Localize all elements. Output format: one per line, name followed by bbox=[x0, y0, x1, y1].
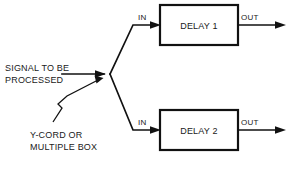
clipped-caption-region bbox=[0, 165, 293, 173]
upper-branch-line bbox=[110, 25, 155, 74]
diagram-canvas: DELAY 1 DELAY 2 SIGNAL TO BE PROCESSED Y… bbox=[0, 0, 293, 173]
delay-1-output-arrowhead bbox=[275, 21, 286, 29]
signal-delay-block-diagram: DELAY 1 DELAY 2 SIGNAL TO BE PROCESSED Y… bbox=[0, 0, 293, 173]
signal-label-line-1: SIGNAL TO BE bbox=[5, 63, 69, 73]
delay-1-label: DELAY 1 bbox=[180, 21, 218, 31]
delay-2-label: DELAY 2 bbox=[180, 126, 218, 136]
signal-label-line-2: PROCESSED bbox=[5, 75, 64, 85]
annotation-leader-arrowhead bbox=[95, 76, 104, 84]
annotation-label-line-2: MULTIPLE BOX bbox=[30, 142, 97, 152]
delay-2-output-arrowhead bbox=[275, 126, 286, 134]
delay-1-out-label: OUT bbox=[241, 13, 259, 22]
delay-1-in-label: IN bbox=[138, 13, 146, 22]
lower-branch-line bbox=[110, 74, 155, 130]
annotation-label-line-1: Y-CORD OR bbox=[30, 130, 83, 140]
delay-2-out-label: OUT bbox=[241, 118, 259, 127]
annotation-leader-zigzag bbox=[53, 79, 100, 122]
delay-2-in-label: IN bbox=[138, 118, 146, 127]
